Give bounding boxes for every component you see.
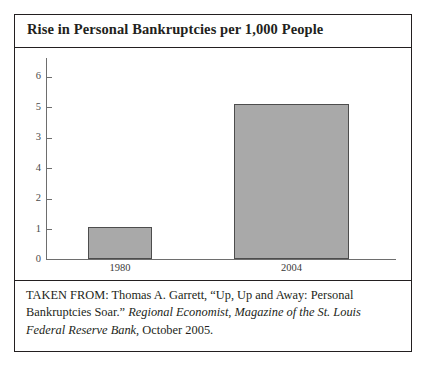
plot-area: 6 5 3 4 2 1 0 1980 2004 [15, 48, 411, 280]
y-tick-label: 5 [25, 102, 41, 113]
y-tick-mark [46, 259, 52, 260]
source-citation: TAKEN FROM: Thomas A. Garrett, “Up, Up a… [26, 287, 402, 339]
x-tick-label-2004: 2004 [234, 263, 349, 274]
figure-frame: Rise in Personal Bankruptcies per 1,000 … [14, 14, 412, 352]
bar-1980 [88, 227, 152, 259]
y-tick-label: 0 [25, 254, 41, 265]
x-tick-label-1980: 1980 [88, 263, 152, 274]
y-tick-label: 2 [25, 193, 41, 204]
source-band: TAKEN FROM: Thomas A. Garrett, “Up, Up a… [15, 280, 411, 351]
y-tick-mark [46, 229, 52, 230]
y-tick-mark [46, 107, 52, 108]
y-tick-mark [46, 199, 52, 200]
x-axis-line [46, 259, 396, 260]
title-band: Rise in Personal Bankruptcies per 1,000 … [15, 15, 411, 48]
y-tick-mark [46, 168, 52, 169]
y-tick-label: 1 [25, 224, 41, 235]
y-tick-label: 6 [25, 71, 41, 82]
chart-title: Rise in Personal Bankruptcies per 1,000 … [27, 21, 323, 38]
y-tick-mark [46, 138, 52, 139]
y-tick-label: 3 [25, 132, 41, 143]
y-tick-mark [46, 77, 52, 78]
y-tick-label: 4 [25, 163, 41, 174]
bar-2004 [234, 104, 349, 259]
source-suffix: , October 2005. [136, 323, 213, 337]
